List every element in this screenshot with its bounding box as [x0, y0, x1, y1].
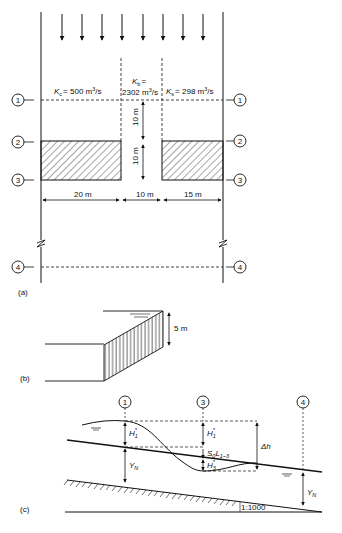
- panel-a: 1 1 2 2 3 3 4 4 Kc= 500 m3/s Kb=: [12, 12, 246, 297]
- h1-right-label: H1*: [207, 427, 216, 439]
- left-embankment-block: [41, 141, 121, 180]
- step-face: [104, 311, 163, 381]
- slope-term-label: S0L1–3: [207, 449, 230, 459]
- section-1-left-label: 1: [16, 96, 21, 105]
- conveyance-middle-symbol: Kb=: [132, 77, 146, 87]
- section-4-right-label: 4: [238, 263, 243, 272]
- panel-c-label: (c): [20, 505, 30, 514]
- left-wall-break: [37, 240, 45, 247]
- vertical-dim-lower-label: 10 m: [131, 147, 140, 165]
- horizontal-dim-middle-label: 10 m: [136, 190, 154, 199]
- section-1-marker: 1: [123, 398, 128, 407]
- section-4-left-label: 4: [16, 263, 21, 272]
- conveyance-middle-value: 2302 m3/s: [122, 87, 158, 97]
- vertical-dim-upper-label: 10 m: [131, 108, 140, 126]
- conveyance-right-label: Ks= 298 m3/s: [166, 86, 214, 97]
- section-3-right-label: 3: [238, 176, 243, 185]
- panel-b-label: (b): [20, 374, 30, 383]
- right-wall-break: [219, 240, 227, 247]
- section-3-left-label: 3: [16, 176, 21, 185]
- yn-left-label: YN: [129, 461, 138, 471]
- delta-h-label: Δh: [260, 442, 271, 451]
- height-dim-label: 5 m: [174, 324, 188, 333]
- bed-slope-label: 1:1000: [241, 503, 266, 512]
- horizontal-dim-right-label: 15 m: [184, 190, 202, 199]
- normal-water-line: [67, 440, 322, 472]
- flow-arrows: [62, 14, 203, 40]
- section-3-marker: 3: [201, 398, 206, 407]
- section-2-left-label: 2: [16, 138, 21, 147]
- right-embankment-block: [162, 141, 223, 180]
- section-1-right-label: 1: [238, 96, 243, 105]
- panel-a-label: (a): [18, 288, 28, 297]
- section-4-marker: 4: [301, 398, 306, 407]
- h3-label: H3*: [207, 459, 217, 471]
- yn-right-label: YN: [307, 488, 316, 498]
- h1-left-label: H1*: [129, 427, 138, 439]
- horizontal-dim-left-label: 20 m: [74, 190, 92, 199]
- bed-hatching: [64, 480, 236, 506]
- section-markers: 1 1 2 2 3 3 4 4: [12, 94, 246, 273]
- section-2-right-label: 2: [238, 137, 243, 146]
- hydraulic-diagram: 1 1 2 2 3 3 4 4 Kc= 500 m3/s Kb=: [0, 0, 342, 533]
- panel-c: 1 3 4 H1* YN H1* S0L1–3 H3*: [20, 396, 322, 514]
- panel-b: 5 m (b): [20, 311, 188, 383]
- channel-bed: [67, 480, 322, 512]
- conveyance-left-label: Kc= 500 m3/s: [54, 86, 102, 97]
